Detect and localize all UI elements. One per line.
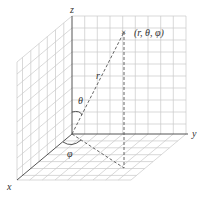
- xz-plane-grid: [17, 16, 72, 180]
- spherical-coordinates-diagram: × (r, θ, φ) z y x r θ φ: [0, 0, 208, 198]
- point-marker-icon: ×: [121, 27, 127, 37]
- yz-plane-grid: [72, 16, 186, 134]
- radius-line: [72, 32, 124, 134]
- y-axis-label: y: [191, 128, 197, 139]
- theta-label: θ: [78, 95, 83, 106]
- phi-label: φ: [67, 148, 73, 159]
- x-axis-label: x: [6, 181, 12, 192]
- point-label: (r, θ, φ): [134, 27, 165, 39]
- z-axis-label: z: [69, 4, 74, 15]
- xy-plane-grid: [17, 134, 186, 180]
- radius-label: r: [96, 70, 100, 81]
